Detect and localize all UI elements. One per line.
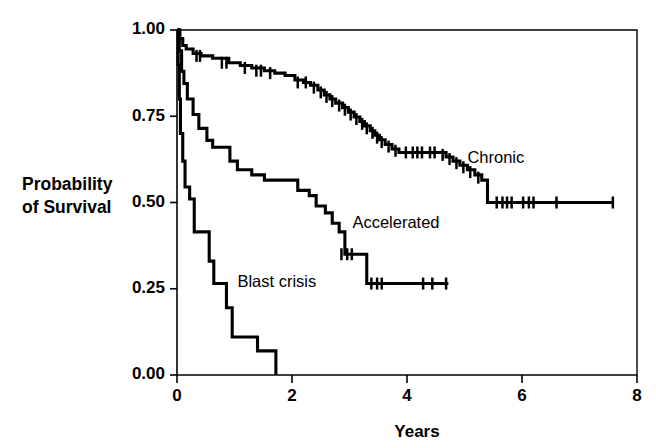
- y-tick-label: 0.75: [132, 106, 165, 125]
- survival-curves: [177, 30, 614, 375]
- y-tick-label: 0.00: [132, 364, 165, 383]
- survival-curve-blast-crisis: [177, 30, 276, 375]
- series-label-accelerated: Accelerated: [352, 213, 439, 231]
- y-axis-title-line2: of Survival: [22, 197, 111, 217]
- y-axis-tick-labels: 0.000.250.500.751.00: [132, 19, 165, 383]
- y-axis-ticks: [170, 30, 177, 375]
- x-axis-ticks: [177, 375, 637, 383]
- x-tick-label: 8: [632, 386, 641, 405]
- y-tick-label: 0.25: [132, 278, 165, 297]
- x-tick-label: 6: [517, 386, 526, 405]
- y-tick-label: 0.50: [132, 192, 165, 211]
- censoring-marks: [197, 50, 613, 290]
- survival-curve-chronic: [177, 30, 614, 203]
- x-tick-label: 0: [172, 386, 181, 405]
- series-label-blast-crisis: Blast crisis: [237, 272, 316, 290]
- survival-curve-accelerated: [177, 30, 448, 284]
- y-axis-title-line1: Probability: [22, 174, 113, 194]
- x-axis-title: Years: [394, 422, 439, 441]
- series-labels: ChronicAcceleratedBlast crisis: [237, 148, 524, 290]
- km-plot-svg: 0.000.250.500.751.00 02468 ChronicAccele…: [0, 0, 656, 448]
- series-label-chronic: Chronic: [467, 148, 524, 166]
- y-tick-label: 1.00: [132, 19, 165, 38]
- x-tick-label: 2: [287, 386, 296, 405]
- survival-chart: 0.000.250.500.751.00 02468 ChronicAccele…: [0, 0, 656, 448]
- x-tick-label: 4: [402, 386, 412, 405]
- x-axis-tick-labels: 02468: [172, 386, 641, 405]
